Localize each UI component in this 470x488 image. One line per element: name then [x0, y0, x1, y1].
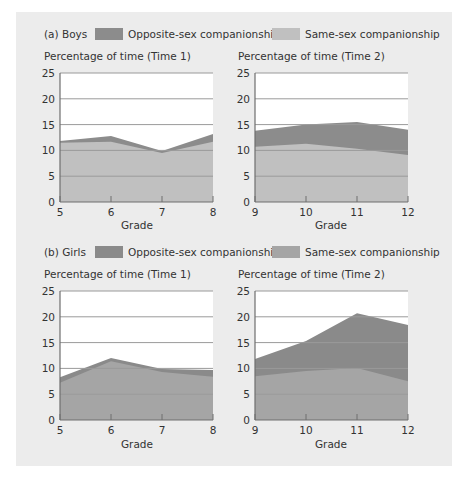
x-axis-label: Grade: [121, 438, 153, 450]
chart-girls-time1: Percentage of time (Time 1) 051015202556…: [42, 268, 217, 450]
x-tick-label: 11: [350, 424, 363, 436]
x-tick-label: 10: [299, 206, 312, 218]
legend-label-opposite-boys: Opposite-sex companionship: [128, 28, 280, 40]
x-tick-label: 8: [210, 424, 217, 436]
section-girls-header: (b) Girls Opposite-sex companionship Sam…: [44, 246, 440, 258]
legend-label-same-boys: Same-sex companionship: [305, 28, 440, 40]
legend-swatch-opposite-boys: [95, 28, 123, 40]
x-tick-label: 12: [401, 206, 414, 218]
y-tick-label: 20: [237, 311, 250, 323]
y-tick-label: 0: [48, 196, 55, 208]
x-tick-label: 9: [252, 206, 259, 218]
y-tick-label: 20: [42, 93, 55, 105]
y-tick-label: 10: [42, 362, 55, 374]
section-boys-header: (a) Boys Opposite-sex companionship Same…: [44, 28, 440, 40]
y-tick-label: 10: [237, 362, 250, 374]
legend-label-opposite-girls: Opposite-sex companionship: [128, 246, 280, 258]
legend-swatch-same-girls: [272, 246, 300, 258]
y-tick-label: 0: [243, 414, 250, 426]
x-axis-label: Grade: [315, 438, 347, 450]
chart-girls-time2: Percentage of time (Time 2) 051015202591…: [237, 268, 415, 450]
x-tick-label: 5: [57, 206, 64, 218]
x-axis-label: Grade: [315, 219, 347, 231]
y-tick-label: 10: [237, 144, 250, 156]
area-same-sex: [255, 144, 408, 202]
y-tick-label: 0: [48, 414, 55, 426]
figure: (a) Boys Opposite-sex companionship Same…: [0, 0, 470, 488]
x-tick-label: 8: [210, 206, 217, 218]
y-tick-label: 0: [243, 196, 250, 208]
y-tick-label: 20: [237, 93, 250, 105]
y-tick-label: 10: [42, 144, 55, 156]
legend-label-same-girls: Same-sex companionship: [305, 246, 440, 258]
x-tick-label: 7: [159, 424, 166, 436]
y-tick-label: 25: [42, 67, 55, 79]
x-tick-label: 7: [159, 206, 166, 218]
chart-boys-time1: Percentage of time (Time 1) 051015202556…: [42, 50, 217, 231]
x-tick-label: 12: [401, 424, 414, 436]
y-tick-label: 15: [237, 119, 250, 131]
y-tick-label: 15: [42, 337, 55, 349]
chart-title: Percentage of time (Time 2): [238, 50, 385, 62]
y-tick-label: 20: [42, 311, 55, 323]
x-tick-label: 9: [252, 424, 259, 436]
y-tick-label: 15: [42, 119, 55, 131]
y-tick-label: 5: [243, 388, 250, 400]
x-axis-label: Grade: [121, 219, 153, 231]
x-tick-label: 11: [350, 206, 363, 218]
x-tick-label: 10: [299, 424, 312, 436]
x-tick-label: 6: [108, 206, 115, 218]
y-tick-label: 5: [243, 170, 250, 182]
chart-boys-time2: Percentage of time (Time 2) 051015202591…: [237, 50, 415, 231]
legend-swatch-same-boys: [272, 28, 300, 40]
y-tick-label: 5: [48, 170, 55, 182]
y-tick-label: 15: [237, 337, 250, 349]
chart-title: Percentage of time (Time 1): [44, 268, 191, 280]
legend-swatch-opposite-girls: [95, 246, 123, 258]
section-label-boys: (a) Boys: [44, 28, 87, 40]
x-tick-label: 5: [57, 424, 64, 436]
y-tick-label: 25: [237, 67, 250, 79]
y-tick-label: 25: [237, 285, 250, 297]
x-tick-label: 6: [108, 424, 115, 436]
y-tick-label: 5: [48, 388, 55, 400]
chart-title: Percentage of time (Time 1): [44, 50, 191, 62]
y-tick-label: 25: [42, 285, 55, 297]
chart-title: Percentage of time (Time 2): [238, 268, 385, 280]
section-label-girls: (b) Girls: [44, 246, 86, 258]
